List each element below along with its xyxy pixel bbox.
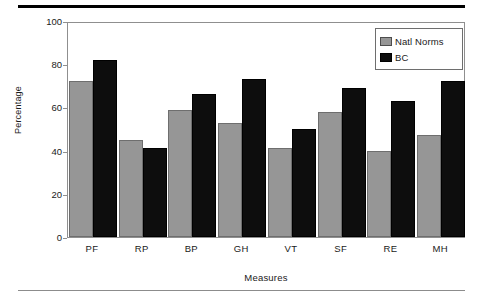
y-tick-label-100: 100 [18,16,62,27]
bar-re-bc [391,101,415,237]
gray-swatch-icon [380,37,392,46]
legend-item-bc: BC [380,49,458,65]
bar-sf-bc [342,88,366,237]
y-tick-label-40: 40 [18,146,62,157]
black-swatch-icon [380,53,392,62]
bar-vt-bc [292,129,316,237]
x-axis-title: Measures [67,272,465,283]
figure: Percentage Measures 020406080100 PFRPBPG… [0,0,482,307]
bar-rp-bc [143,148,167,237]
x-tick-label-pf: PF [67,243,117,254]
x-tick-label-bp: BP [167,243,217,254]
x-tick-label-rp: RP [117,243,167,254]
x-tick-label-mh: MH [415,243,465,254]
bar-mh-natl-norms [417,135,441,237]
y-tick-label-80: 80 [18,59,62,70]
bottom-rule [18,290,465,291]
x-tick-label-sf: SF [316,243,366,254]
bar-pf-bc [93,60,117,237]
chart-legend: Natl Norms BC [375,28,463,70]
bar-pf-natl-norms [69,81,93,237]
bar-sf-natl-norms [318,112,342,237]
x-tick-label-gh: GH [216,243,266,254]
top-rule [18,5,465,8]
y-tick-label-60: 60 [18,102,62,113]
bar-re-natl-norms [367,151,391,237]
legend-label-natl-norms: Natl Norms [395,36,444,47]
x-tick-label-re: RE [366,243,416,254]
x-tick-label-vt: VT [266,243,316,254]
bar-mh-bc [441,81,465,237]
y-tick-label-20: 20 [18,189,62,200]
bar-vt-natl-norms [268,148,292,237]
legend-item-natl-norms: Natl Norms [380,33,458,49]
bar-gh-natl-norms [218,123,242,237]
y-tick-mark-0 [63,238,67,239]
y-tick-label-0: 0 [18,232,62,243]
legend-label-bc: BC [395,52,408,63]
bar-bp-bc [192,94,216,237]
bar-bp-natl-norms [168,110,192,237]
bar-rp-natl-norms [119,140,143,237]
bar-gh-bc [242,79,266,237]
